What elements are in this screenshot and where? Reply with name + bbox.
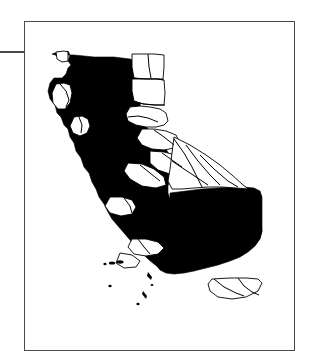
island-san-miguel	[103, 263, 106, 266]
island-santa-catalina	[147, 272, 152, 280]
county-kings-unshaded	[105, 197, 136, 216]
county-lassen-unshaded	[132, 79, 165, 105]
island-anacapa	[151, 284, 154, 286]
island-san-clemente	[142, 291, 147, 299]
california-county-map[interactable]	[24, 21, 295, 329]
island-san-nicolas	[108, 285, 111, 287]
county-delnorte-notch-unshaded	[56, 51, 68, 62]
island-santa-barbara-isle	[136, 303, 139, 305]
island-santa-cruz	[116, 260, 123, 263]
county-southern-desert-shaded-block	[154, 187, 262, 274]
left-margin-rule	[0, 51, 26, 53]
map-svg	[24, 21, 295, 329]
island-santa-rosa	[109, 261, 115, 264]
shaded-counties-group	[48, 51, 262, 299]
